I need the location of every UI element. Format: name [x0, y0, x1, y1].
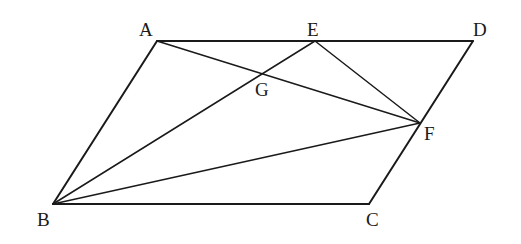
- geometry-diagram: A E D G F B C: [0, 0, 521, 244]
- segment-AF: [157, 41, 420, 123]
- label-B: B: [37, 209, 50, 230]
- label-G: G: [255, 79, 269, 100]
- label-D: D: [473, 19, 487, 40]
- label-C: C: [366, 209, 379, 230]
- label-A: A: [139, 19, 153, 40]
- segment-DC: [369, 41, 473, 204]
- segment-BF: [53, 123, 420, 204]
- segments: [53, 41, 473, 204]
- label-F: F: [424, 123, 435, 144]
- segment-BA: [53, 41, 157, 204]
- segment-EF: [315, 41, 420, 123]
- label-E: E: [307, 19, 319, 40]
- segment-BE: [53, 41, 315, 204]
